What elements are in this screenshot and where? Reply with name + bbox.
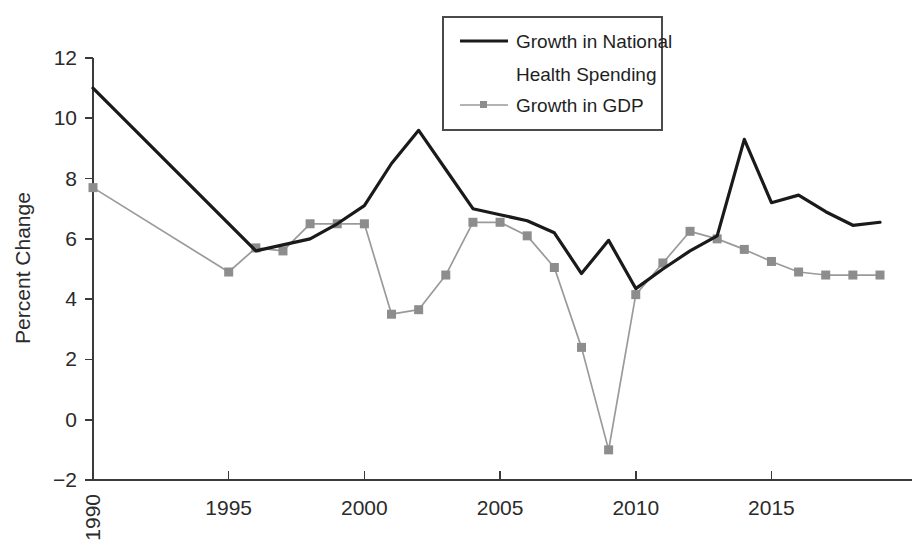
y-tick-label-8: 8 <box>65 167 77 190</box>
y-tick-label-4: 4 <box>65 287 77 310</box>
x-axis-tick-labels: 199019952000200520102015 <box>81 494 795 541</box>
series-marker-growth-in-gdp-2010 <box>631 290 640 299</box>
chart-legend: Growth in National Health Spending Growt… <box>443 17 672 130</box>
x-tick-label-2010: 2010 <box>612 496 659 519</box>
series-growth-in-gdp <box>89 183 885 454</box>
series-marker-growth-in-gdp-1995 <box>224 268 233 277</box>
x-axis-ticks <box>93 471 771 480</box>
x-tick-label-1995: 1995 <box>205 496 252 519</box>
y-axis-title: Percent Change <box>11 192 34 344</box>
y-tick-label-12: 12 <box>54 46 77 69</box>
series-marker-growth-in-gdp-2005 <box>496 218 505 227</box>
legend-marker-gdp <box>480 101 487 108</box>
x-axis: 199019952000200520102015 <box>81 471 912 541</box>
x-tick-label-2000: 2000 <box>341 496 388 519</box>
y-tick-label-0: 0 <box>65 408 77 431</box>
series-marker-growth-in-gdp-2019 <box>876 271 885 280</box>
series-marker-growth-in-gdp-1997 <box>278 246 287 255</box>
y-axis: −2024681012 <box>53 46 93 491</box>
series-marker-growth-in-gdp-2008 <box>577 343 586 352</box>
legend-label-national-health-spending-line2: Health Spending <box>516 64 657 85</box>
x-tick-label-2005: 2005 <box>477 496 524 519</box>
series-marker-growth-in-gdp-2015 <box>767 257 776 266</box>
series-line-growth-in-gdp <box>93 188 880 450</box>
series-marker-growth-in-gdp-2018 <box>848 271 857 280</box>
series-marker-growth-in-gdp-2003 <box>441 271 450 280</box>
series-marker-growth-in-gdp-2017 <box>821 271 830 280</box>
series-marker-growth-in-gdp-2009 <box>604 445 613 454</box>
data-series-layer <box>89 88 885 454</box>
series-marker-growth-in-gdp-2016 <box>794 268 803 277</box>
x-tick-label-2015: 2015 <box>748 496 795 519</box>
y-axis-ticks <box>85 58 93 480</box>
series-marker-growth-in-gdp-2014 <box>740 245 749 254</box>
series-marker-growth-in-gdp-2012 <box>686 227 695 236</box>
series-marker-growth-in-gdp-2001 <box>387 310 396 319</box>
series-marker-growth-in-gdp-2006 <box>523 231 532 240</box>
series-marker-growth-in-gdp-2007 <box>550 263 559 272</box>
y-tick-label-10: 10 <box>54 106 77 129</box>
y-tick-label--2: −2 <box>53 468 77 491</box>
chart-figure: −2024681012 199019952000200520102015 Per… <box>0 0 923 557</box>
series-marker-growth-in-gdp-2004 <box>468 218 477 227</box>
y-tick-label-2: 2 <box>65 347 77 370</box>
x-tick-label-1990: 1990 <box>81 494 104 541</box>
series-marker-growth-in-gdp-1998 <box>306 219 315 228</box>
y-axis-tick-labels: −2024681012 <box>53 46 77 491</box>
series-marker-growth-in-gdp-2002 <box>414 305 423 314</box>
series-marker-growth-in-gdp-2000 <box>360 219 369 228</box>
legend-label-national-health-spending-line1: Growth in National <box>516 31 672 52</box>
y-tick-label-6: 6 <box>65 227 77 250</box>
series-marker-growth-in-gdp-1990 <box>89 183 98 192</box>
line-chart-canvas: −2024681012 199019952000200520102015 Per… <box>0 0 923 557</box>
legend-label-gdp: Growth in GDP <box>516 95 644 116</box>
